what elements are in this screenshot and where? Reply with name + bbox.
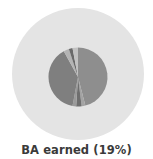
pie-chart (0, 0, 153, 159)
chart-caption: BA earned (19%) (0, 143, 153, 157)
inner-pie (48, 47, 107, 106)
